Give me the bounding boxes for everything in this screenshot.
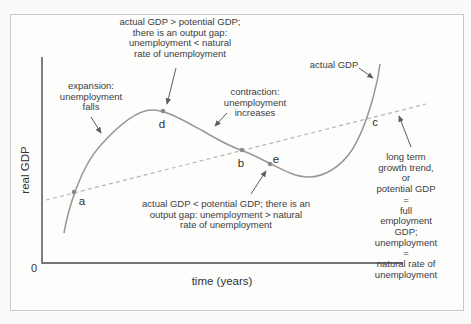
arrow-bottom-annotation-to-e <box>251 171 266 194</box>
annotation-long-term-trend: long term growth trend, or potential GDP… <box>374 152 439 280</box>
point-label-c: c <box>372 116 378 128</box>
point-label-d: d <box>159 118 165 130</box>
annotation-contraction: contraction: unemployment increases <box>224 87 286 119</box>
point-label-a: a <box>79 195 85 207</box>
annotation-output-gap-positive: actual GDP > potential GDP; there is an … <box>119 17 240 60</box>
point-marker-e <box>268 162 273 167</box>
point-label-b: b <box>238 157 244 169</box>
arrow-trend-label-to-line <box>399 116 411 147</box>
origin-label: 0 <box>31 262 37 274</box>
point-marker-d <box>161 109 166 114</box>
arrow-top-annotation-to-d <box>167 68 176 104</box>
business-cycle-figure: actual GDP > potential GDP; there is an … <box>0 0 471 324</box>
point-marker-b <box>240 148 245 153</box>
point-label-e: e <box>273 153 279 165</box>
y-axis-label: real GDP <box>19 146 31 193</box>
annotation-expansion: expansion: unemployment falls <box>60 81 122 113</box>
annotation-output-gap-negative: actual GDP < potential GDP; there is an … <box>142 199 310 231</box>
point-marker-a <box>72 190 77 195</box>
curve-label-actual-gdp: actual GDP <box>310 60 359 71</box>
arrow-actual-gdp-label-to-curve <box>359 68 373 78</box>
x-axis-label: time (years) <box>192 275 253 287</box>
arrow-expansion-to-curve <box>91 117 101 133</box>
